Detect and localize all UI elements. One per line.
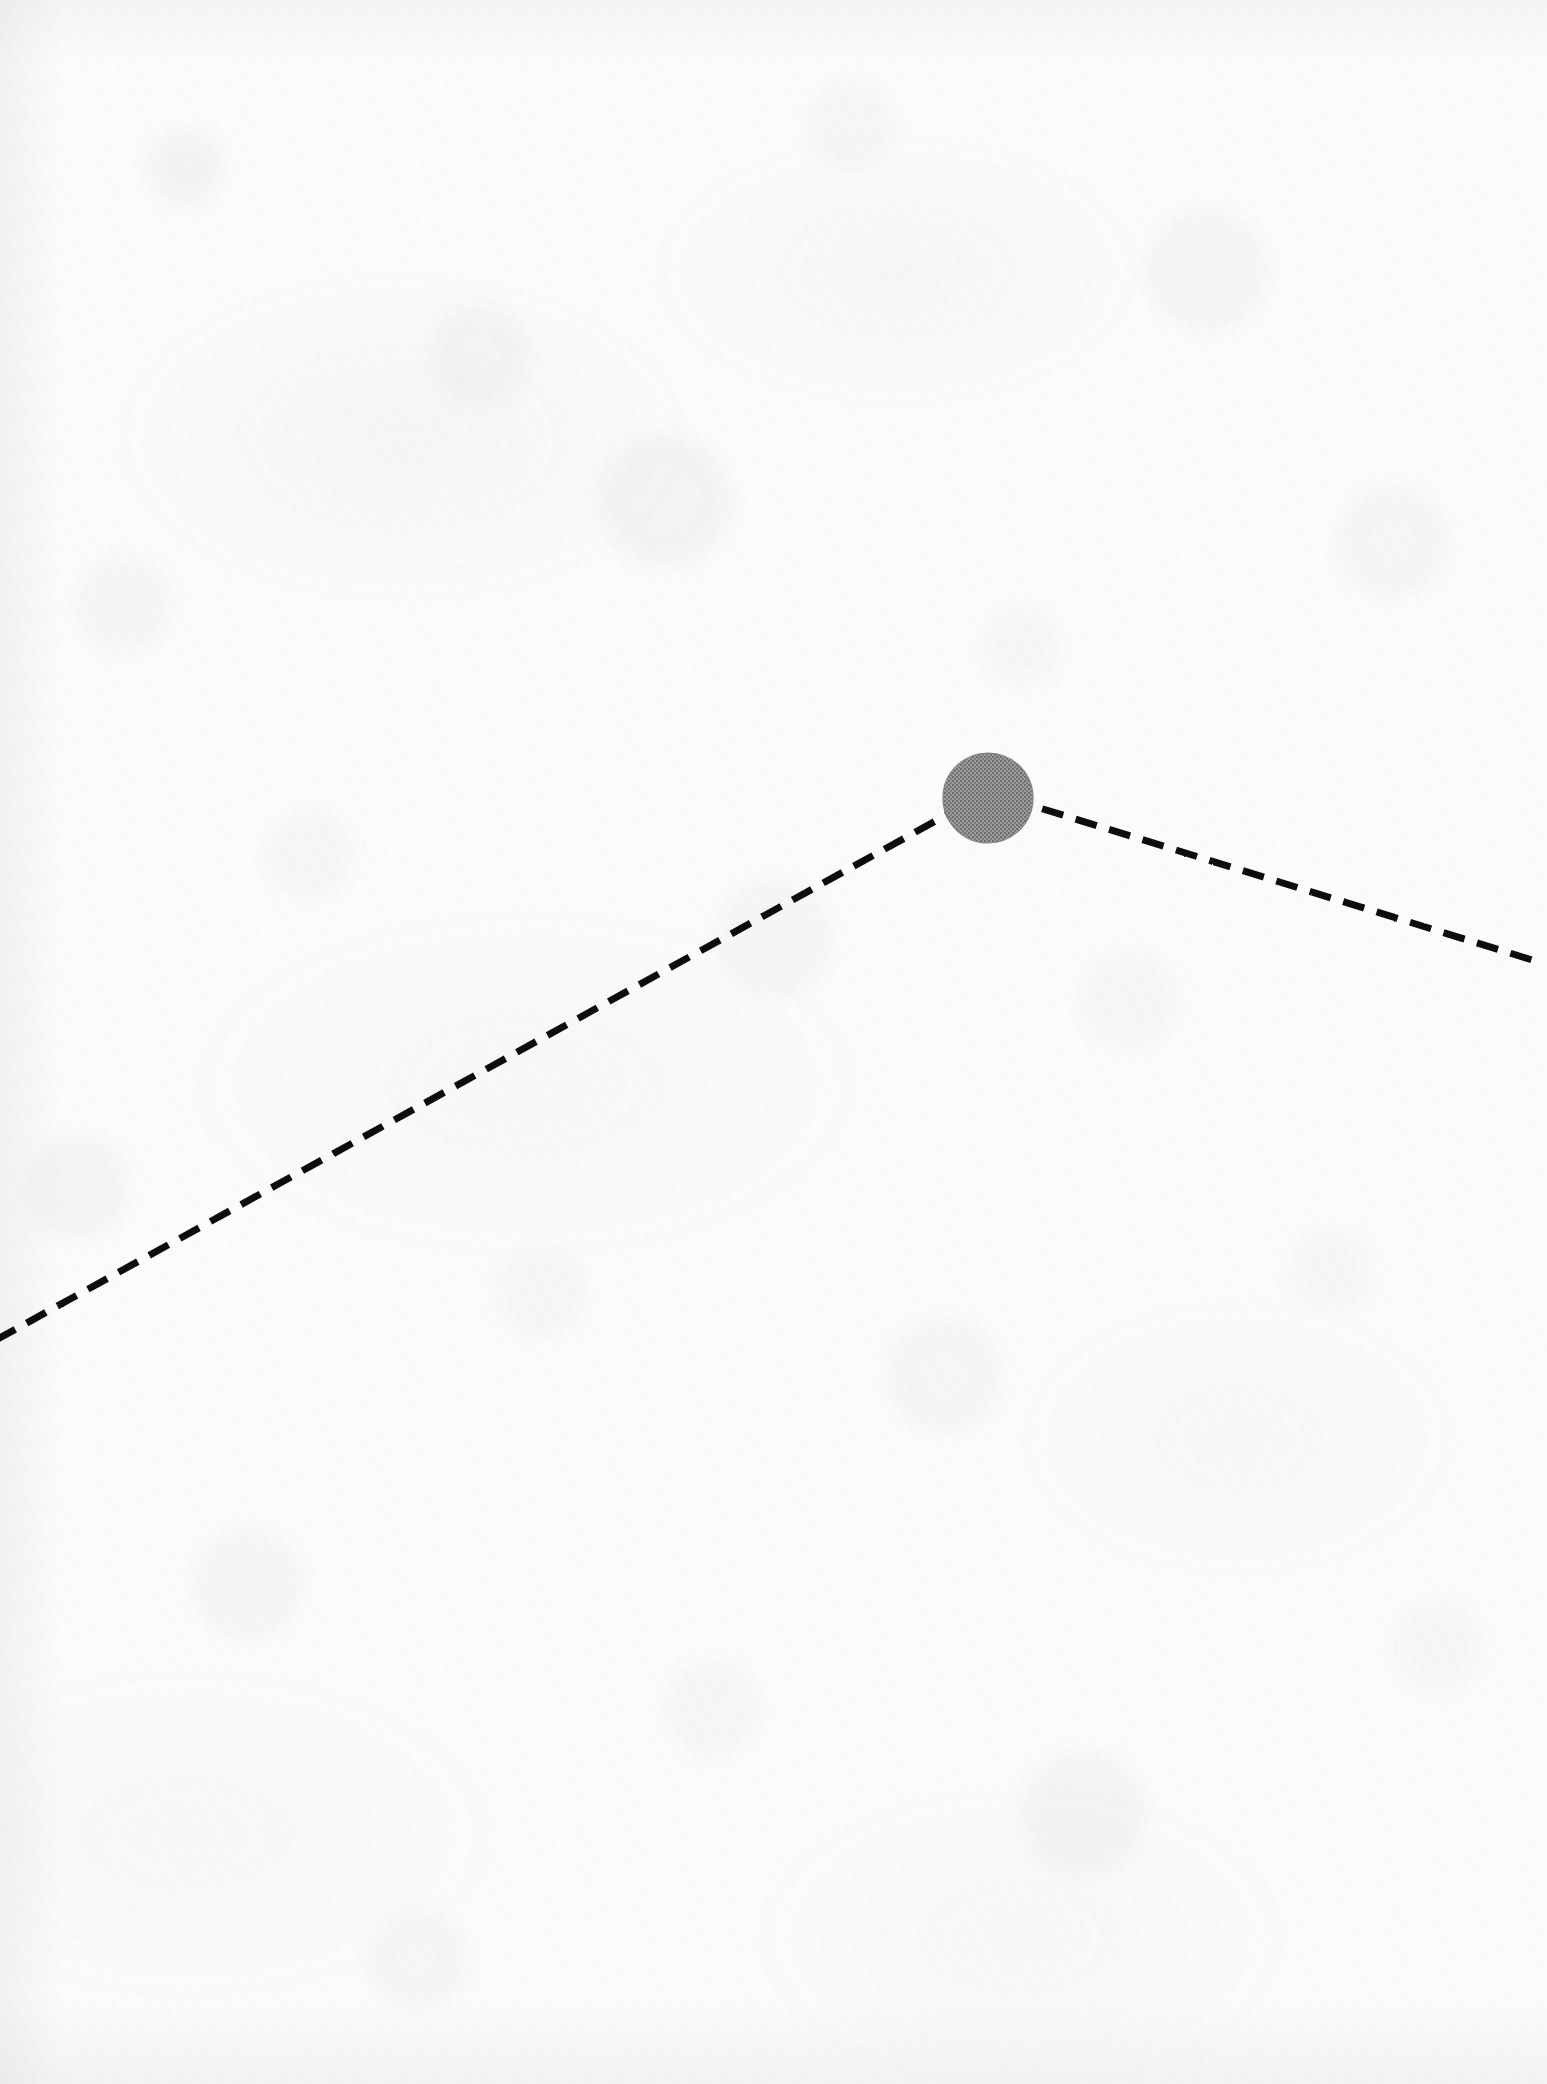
scanned-page — [0, 0, 1547, 2084]
dashed-polyline — [0, 792, 1542, 1340]
data-point-marker — [943, 753, 1033, 843]
figure-canvas — [0, 0, 1547, 2084]
